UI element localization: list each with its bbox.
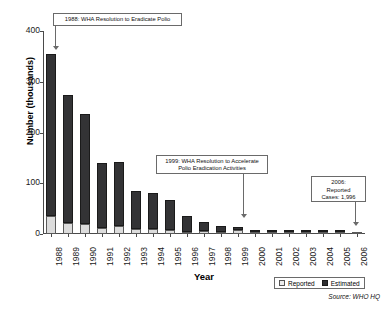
bar-1998[interactable] <box>216 226 226 234</box>
y-tick-label: 200 <box>26 127 40 137</box>
annotation-2006-line-1: 2006: <box>316 179 361 187</box>
annotation-1999-line-2: Polio Eradication Activities <box>161 165 263 172</box>
x-tick-label-1989: 1989 <box>72 247 81 266</box>
y-axis-title: Number (thousands) <box>25 31 35 171</box>
x-tick-mark-1999 <box>238 234 239 237</box>
bar-segment-estimated-1990 <box>80 114 90 224</box>
bar-segment-reported-1988 <box>46 216 56 234</box>
bar-segment-estimated-1996 <box>182 216 192 232</box>
x-tick-label-2000: 2000 <box>258 247 267 266</box>
x-tick-mark-1994 <box>153 234 154 237</box>
bar-segment-reported-1989 <box>63 223 73 234</box>
bar-segment-estimated-1991 <box>97 163 107 228</box>
y-tick-label: 300 <box>26 76 40 86</box>
x-tick-label-1994: 1994 <box>157 247 166 266</box>
bar-1988[interactable] <box>46 54 56 234</box>
x-tick-label-2006: 2006 <box>360 247 369 266</box>
x-tick-label-2005: 2005 <box>343 247 352 266</box>
x-tick-label-1991: 1991 <box>106 247 115 266</box>
x-tick-mark-1998 <box>221 234 222 237</box>
x-tick-label-1993: 1993 <box>140 247 149 266</box>
x-tick-label-1992: 1992 <box>123 247 132 266</box>
y-tick: 400 <box>0 31 48 32</box>
y-tick-label: 100 <box>26 177 40 187</box>
x-tick-label-1999: 1999 <box>241 247 250 266</box>
bar-1999[interactable] <box>233 227 243 234</box>
bar-1993[interactable] <box>131 191 141 234</box>
x-tick-mark-1997 <box>204 234 205 237</box>
y-tick-mark <box>40 234 43 235</box>
y-tick-label: 0 <box>35 228 40 238</box>
annotation-1999-line-1: 1999: WHA Resolution to Accelerate <box>161 158 263 165</box>
annotation-2006-line-2: Reported <box>316 187 361 195</box>
bar-segment-reported-1992 <box>114 226 124 234</box>
x-tick-mark-1992 <box>119 234 120 237</box>
annotation-2006-leader <box>355 202 356 224</box>
x-tick-mark-2006 <box>357 234 358 237</box>
bar-segment-estimated-1995 <box>165 200 175 231</box>
x-tick-mark-1989 <box>68 234 69 237</box>
annotation-2006-line-3: Cases: 1,996 <box>316 194 361 202</box>
x-tick-label-1988: 1988 <box>55 247 64 266</box>
bar-1992[interactable] <box>114 162 124 234</box>
annotation-1999-box: 1999: WHA Resolution to Accelerate Polio… <box>156 155 268 174</box>
annotation-1999-leader <box>243 174 244 216</box>
bar-1994[interactable] <box>148 193 158 234</box>
x-tick-mark-2005 <box>340 234 341 237</box>
x-tick-mark-1995 <box>170 234 171 237</box>
x-tick-mark-1988 <box>51 234 52 237</box>
x-tick-label-1997: 1997 <box>208 247 217 266</box>
x-tick-mark-1996 <box>187 234 188 237</box>
y-tick: 0 <box>0 234 48 235</box>
x-tick-label-1995: 1995 <box>174 247 183 266</box>
x-tick-label-2001: 2001 <box>275 247 284 266</box>
x-tick-mark-2004 <box>323 234 324 237</box>
bar-segment-estimated-1988 <box>46 54 56 216</box>
x-tick-label-2002: 2002 <box>292 247 301 266</box>
annotation-2006-arrowhead <box>353 222 359 226</box>
x-tick-mark-2001 <box>272 234 273 237</box>
x-tick-mark-1993 <box>136 234 137 237</box>
polio-cases-chart: Number (thousands) 0100200300400 1988198… <box>0 0 387 310</box>
legend-item-estimated[interactable]: Estimated <box>322 280 360 287</box>
bar-1997[interactable] <box>199 222 209 234</box>
chart-legend[interactable]: Reported Estimated <box>274 277 365 289</box>
y-tick: 100 <box>0 183 48 184</box>
bar-segment-reported-1990 <box>80 224 90 234</box>
annotation-2006-box: 2006: Reported Cases: 1,996 <box>311 176 366 202</box>
x-tick-label-2003: 2003 <box>309 247 318 266</box>
x-tick-mark-1991 <box>102 234 103 237</box>
annotation-1988-text: 1988: WHA Resolution to Eradicate Polio <box>65 16 170 22</box>
bar-1991[interactable] <box>97 163 107 234</box>
x-tick-mark-1990 <box>85 234 86 237</box>
bar-1996[interactable] <box>182 216 192 234</box>
annotation-1999-arrowhead <box>241 214 247 218</box>
legend-swatch-reported <box>279 280 285 286</box>
bar-segment-estimated-1997 <box>199 222 209 231</box>
y-tick-label: 400 <box>26 25 40 35</box>
x-tick-label-2004: 2004 <box>326 247 335 266</box>
chart-source-note: Source: WHO HQ <box>255 293 380 300</box>
x-tick-mark-2002 <box>289 234 290 237</box>
bar-segment-estimated-1993 <box>131 191 141 229</box>
bar-1995[interactable] <box>165 200 175 235</box>
annotation-1988-arrowhead <box>53 46 59 50</box>
y-tick: 200 <box>0 133 48 134</box>
bar-1990[interactable] <box>80 114 90 234</box>
x-tick-label-1998: 1998 <box>224 247 233 266</box>
bar-1989[interactable] <box>63 95 73 234</box>
y-tick: 300 <box>0 82 48 83</box>
x-tick-mark-2003 <box>306 234 307 237</box>
annotation-1988-box: 1988: WHA Resolution to Eradicate Polio <box>53 13 182 26</box>
legend-swatch-estimated <box>322 280 328 286</box>
x-tick-label-1990: 1990 <box>89 247 98 266</box>
bar-segment-estimated-1994 <box>148 193 158 229</box>
annotation-1988-leader <box>55 26 56 48</box>
bar-segment-estimated-1989 <box>63 95 73 223</box>
legend-label-reported: Reported <box>288 280 315 287</box>
bar-segment-estimated-1992 <box>114 162 124 226</box>
legend-label-estimated: Estimated <box>331 280 360 287</box>
x-tick-mark-2000 <box>255 234 256 237</box>
legend-item-reported[interactable]: Reported <box>279 280 315 287</box>
x-tick-label-1996: 1996 <box>191 247 200 266</box>
